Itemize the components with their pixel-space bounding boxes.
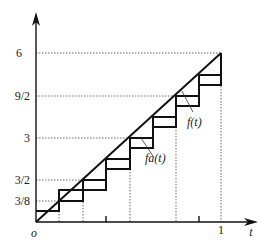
y-tick-3: 3 [24, 131, 30, 145]
label-f: f(t) [187, 115, 202, 129]
origin-label: o [31, 226, 37, 240]
y-tick-6: 6 [16, 46, 22, 60]
leader-f [182, 91, 193, 112]
x-tick-1: 1 [218, 223, 224, 237]
y-tick-9-2: 9/2 [15, 89, 30, 103]
x-axis-label: t [249, 225, 253, 239]
staircase-fa [36, 53, 221, 211]
line-f [36, 53, 221, 222]
label-fa: fa(t) [145, 151, 166, 165]
y-tick-3-2: 3/2 [15, 173, 30, 187]
y-tick-3-8: 3/8 [15, 194, 30, 208]
figure: 6 9/2 3 3/2 3/8 o 1 t f(t) fa(t) [0, 0, 271, 251]
